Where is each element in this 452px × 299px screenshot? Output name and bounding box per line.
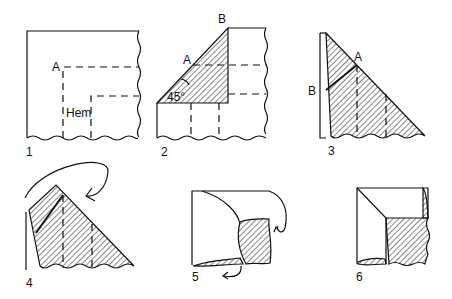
label-45-degrees: 45° [167,90,185,104]
step-2-figure: B A 45° 2 [157,12,268,159]
label-a: A [183,53,191,67]
label-b: B [218,12,226,26]
mitered-corner-diagram: A Hem 1 B A 45° 2 A B 3 [0,0,452,299]
step-6-figure: 6 [356,188,430,284]
step-number-4: 4 [26,276,33,290]
step-5-figure: 5 [192,191,286,284]
label-a: A [52,60,60,74]
step-3-figure: A B 3 [308,33,425,158]
step-number-1: 1 [26,145,33,159]
fold-arrow-icon [25,163,108,198]
fold-arrow-icon [224,266,241,277]
step-number-5: 5 [192,270,199,284]
step-number-3: 3 [328,144,335,158]
label-a: A [354,50,362,64]
step-4-figure: 4 [25,163,134,290]
label-hem: Hem [66,106,91,120]
step-1-figure: A Hem 1 [26,31,141,159]
step-number-6: 6 [356,270,363,284]
label-b: B [308,84,316,98]
step-number-2: 2 [161,145,168,159]
